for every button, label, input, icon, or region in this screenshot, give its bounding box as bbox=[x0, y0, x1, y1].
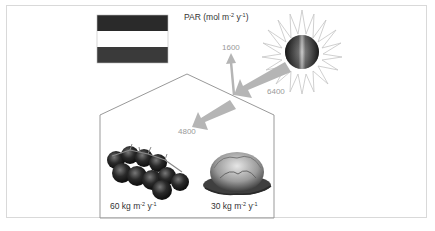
transmitted-flux-label: 4800 bbox=[178, 127, 196, 136]
tomato-yield-label: 60 kg m-2 y-1 bbox=[110, 201, 157, 211]
diagram-canvas bbox=[0, 0, 435, 231]
netherlands-flag-icon bbox=[97, 15, 168, 63]
par-title: PAR (mol m-2 y-1) bbox=[184, 12, 248, 22]
sun-icon bbox=[262, 10, 342, 94]
tomato-cluster-image bbox=[107, 144, 189, 200]
lettuce-yield-label: 30 kg m-2 y-1 bbox=[211, 201, 258, 211]
transmitted-light-arrow bbox=[192, 100, 236, 130]
lettuce-image bbox=[203, 152, 271, 195]
reflected-light-arrow bbox=[226, 53, 236, 95]
reflected-flux-label: 1600 bbox=[222, 43, 240, 52]
incoming-flux-label: 6400 bbox=[267, 87, 285, 96]
